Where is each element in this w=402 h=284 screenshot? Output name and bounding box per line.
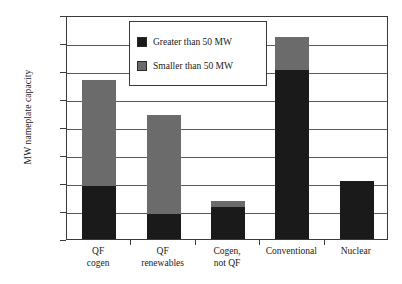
y-axis-label: MW nameplate capacity (23, 27, 33, 207)
x-tick-mark (195, 240, 196, 245)
black-swatch-icon (137, 37, 147, 47)
bar-segment-smaller (147, 115, 181, 214)
x-tick-label-line1: Conventional (266, 246, 317, 256)
x-tick-mark (130, 240, 131, 245)
bar-group (340, 181, 374, 239)
bar-group (275, 37, 309, 239)
y-tick-mark (60, 240, 66, 241)
bar-segment-smaller (82, 80, 116, 186)
bar-segment-greater (340, 181, 374, 239)
bar-segment-greater (82, 186, 116, 239)
x-tick-label-line1: Cogen, (213, 246, 240, 256)
bar-segment-greater (275, 70, 309, 239)
bar-segment-greater (147, 214, 181, 239)
stacked-bar-chart: MW nameplate capacity 8,0007,0006,0005,0… (0, 0, 402, 284)
x-tick-label-line1: QF (92, 246, 104, 256)
legend-label-greater: Greater than 50 MW (153, 37, 232, 47)
legend-item-greater: Greater than 50 MW (137, 30, 266, 54)
bar-group (147, 115, 181, 239)
caption-cutoff (0, 275, 402, 284)
x-tick-label-line1: QF (157, 246, 169, 256)
legend-item-smaller: Smaller than 50 MW (137, 54, 266, 78)
x-tick-label: Nuclear (313, 246, 399, 258)
gray-swatch-icon (137, 61, 147, 71)
legend: Greater than 50 MW Smaller than 50 MW (129, 21, 267, 86)
x-tick-mark (324, 240, 325, 245)
x-tick-mark (259, 240, 260, 245)
x-tick-label-line2: not QF (184, 258, 270, 270)
bar-group (211, 201, 245, 239)
bar-segment-greater (211, 207, 245, 239)
legend-label-smaller: Smaller than 50 MW (153, 61, 233, 71)
bar-segment-smaller (275, 37, 309, 69)
bar-group (82, 80, 116, 239)
x-tick-label-line1: Nuclear (341, 246, 371, 256)
